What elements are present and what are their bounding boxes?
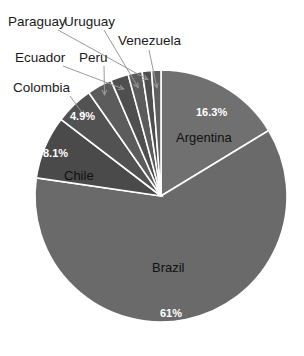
pie-chart-svg: ParaguayUruguayVenezuelaEcuadorPeruColom… (0, 0, 304, 356)
slice-label-colombia: Colombia (13, 80, 71, 95)
slice-percent-chile: 8.1% (43, 147, 68, 159)
slice-percent-brazil: 61% (160, 307, 182, 319)
slice-label-paraguay: Paraguay (8, 14, 66, 29)
leader-line-peru (104, 66, 105, 95)
slice-label-ecuador: Ecuador (15, 50, 66, 65)
slice-label-uruguay: Uruguay (64, 14, 115, 29)
slice-label-venezuela: Venezuela (118, 33, 182, 48)
slice-label-chile: Chile (64, 168, 94, 183)
slice-percent-argentina: 16.3% (196, 106, 227, 118)
slice-percent-colombia: 4.9% (70, 110, 95, 122)
slice-label-argentina: Argentina (176, 130, 232, 145)
slice-label-peru: Peru (79, 50, 108, 65)
pie-slices-group (35, 70, 287, 322)
slice-label-brazil: Brazil (152, 260, 185, 275)
pie-chart-figure: ParaguayUruguayVenezuelaEcuadorPeruColom… (0, 0, 304, 356)
